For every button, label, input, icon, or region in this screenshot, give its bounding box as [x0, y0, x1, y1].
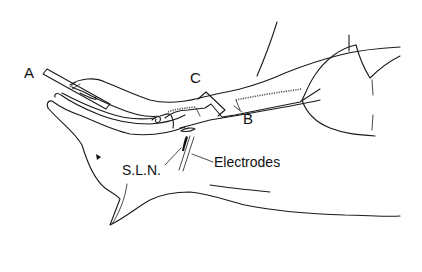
sln-nerve	[182, 136, 188, 151]
shoulder-inner	[372, 80, 373, 130]
upper-head-outline	[70, 47, 400, 102]
tissue-dots-right	[236, 89, 302, 100]
neck-lower-outline	[210, 185, 270, 192]
label-a: A	[24, 65, 34, 80]
dolphin-drawing	[0, 0, 422, 272]
blowhole-ridge	[257, 22, 277, 76]
sln-leader	[165, 148, 181, 165]
b-marker	[234, 100, 242, 112]
larynx-loop	[152, 117, 160, 123]
diagram-canvas: A C B S.L.N. Electrodes	[0, 0, 422, 272]
flipper-inner	[112, 184, 127, 224]
label-c: C	[190, 70, 201, 85]
label-b: B	[243, 111, 253, 126]
label-sln: S.L.N.	[122, 163, 161, 177]
shoulder-line	[356, 45, 400, 78]
lower-jaw-outer	[47, 101, 185, 135]
electrodes-leader	[192, 154, 213, 162]
lung-outline	[302, 45, 375, 136]
larynx-cartilage	[171, 115, 173, 128]
label-electrodes: Electrodes	[214, 155, 280, 169]
eye-icon	[96, 154, 101, 160]
glottis	[181, 128, 195, 131]
